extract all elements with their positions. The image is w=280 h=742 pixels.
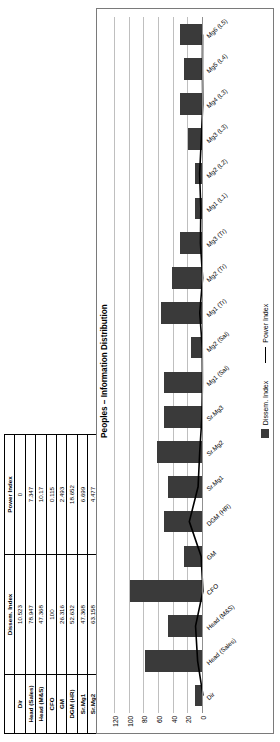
bar xyxy=(184,546,203,568)
x-label-slot: Mg3 (L3) xyxy=(204,121,246,156)
bar-slot xyxy=(115,469,203,504)
legend-line-swatch-icon xyxy=(265,347,266,363)
table-cell-label: Sr.Mg1 xyxy=(77,675,87,734)
table-cell-power: 0.115 xyxy=(46,435,56,555)
bar xyxy=(172,267,203,289)
bar xyxy=(184,58,203,80)
legend-item-dissem: Dissem. Index xyxy=(261,381,269,438)
x-axis-tick-label: Mg6 (L5) xyxy=(205,18,228,40)
x-axis-tick-label: Mg2 (L2) xyxy=(205,157,228,179)
bar-slot xyxy=(115,87,203,122)
x-label-slot: DGM (HR) xyxy=(204,504,246,539)
bar xyxy=(168,615,203,637)
bar xyxy=(145,650,203,672)
x-label-slot: Mg6 (L5) xyxy=(204,17,246,52)
x-axis-tick-label: Mg1 (Sal) xyxy=(205,364,230,387)
y-axis-tick-label: 40 xyxy=(170,716,177,723)
y-axis-tick-label: 60 xyxy=(156,716,163,723)
table-cell-label: Dir xyxy=(15,675,25,734)
axis-baseline xyxy=(202,17,203,713)
data-table-block: Dissem. Index Power Index Dir10.5230Head… xyxy=(4,434,94,734)
bar-slot xyxy=(115,121,203,156)
table-row: CFO1000.115 xyxy=(46,435,56,734)
bar-slot xyxy=(115,400,203,435)
x-label-slot: Mg1 (Sal) xyxy=(204,365,246,400)
x-label-slot: CFO xyxy=(204,574,246,609)
bar-slot xyxy=(115,504,203,539)
figure: Dissem. Index Power Index Dir10.5230Head… xyxy=(0,0,280,742)
bar xyxy=(161,302,203,324)
table-cell-power: 2.493 xyxy=(57,435,67,555)
bar-slot xyxy=(115,52,203,87)
x-label-slot: Mg3 (Tr) xyxy=(204,226,246,261)
table-header-power: Power Index xyxy=(5,435,15,555)
x-label-slot: Mg4 (L3) xyxy=(204,87,246,122)
bar-slot xyxy=(115,330,203,365)
x-axis-tick-label: Mg5 (L4) xyxy=(205,52,228,74)
x-axis-tick-label: Sr.Mg2 xyxy=(205,439,225,458)
bar-slot xyxy=(115,609,203,644)
chart-legend: Dissem. Index Power Index xyxy=(261,9,269,733)
bar xyxy=(168,476,203,498)
legend-label-dissem: Dissem. Index xyxy=(262,381,269,425)
bar-slot xyxy=(115,539,203,574)
x-label-slot: Mg2 (Tr) xyxy=(204,261,246,296)
table-cell-power: 6.699 xyxy=(77,435,87,555)
x-axis-tick-label: Dir xyxy=(205,690,216,701)
x-axis-labels: DirHead (Sales)Head (M&S)CFOGMDGM (HR)Sr… xyxy=(204,17,246,713)
x-label-slot: Mg2 (Sal) xyxy=(204,330,246,365)
table-row: Dir10.5230 xyxy=(15,435,25,734)
table-cell-label: Head (M&S) xyxy=(36,675,46,734)
x-label-slot: Head (Sales) xyxy=(204,643,246,678)
bar xyxy=(164,372,203,394)
rotated-figure-wrapper: Dissem. Index Power Index Dir10.5230Head… xyxy=(0,0,280,742)
table-cell-dissem: 47.368 xyxy=(77,555,87,675)
x-label-slot: Sr.Mg2 xyxy=(204,435,246,470)
bar xyxy=(164,511,203,533)
x-axis-tick-label: Sr.Mg3 xyxy=(205,404,225,423)
table-cell-power: 10.17 xyxy=(36,435,46,555)
table-cell-label: Head (Sales) xyxy=(25,675,35,734)
x-axis-tick-label: Mg3 (L3) xyxy=(205,122,228,144)
table-cell-dissem: 47.368 xyxy=(36,555,46,675)
y-axis-tick-label: 0 xyxy=(200,716,207,720)
bar-slot xyxy=(115,295,203,330)
table-cell-label: DGM (HR) xyxy=(67,675,77,734)
bar-slot xyxy=(115,643,203,678)
x-axis-tick-label: Mg1 (L1) xyxy=(205,192,228,214)
table-cell-dissem: 78.947 xyxy=(25,555,35,675)
table-cell-power: 18.652 xyxy=(67,435,77,555)
x-axis-tick-label: DGM (HR) xyxy=(205,502,232,527)
x-label-slot: Head (M&S) xyxy=(204,609,246,644)
legend-label-power: Power Index xyxy=(262,304,269,343)
bar xyxy=(188,128,203,150)
x-axis-tick-label: Mg1 (Tr) xyxy=(205,297,227,318)
bar-series xyxy=(115,17,203,713)
chart-title: Peoples – Information Distribution xyxy=(100,9,109,733)
x-axis-tick-label: GM xyxy=(205,550,217,562)
table-corner-header xyxy=(5,675,15,734)
table-cell-power: 0 xyxy=(15,435,25,555)
table-header-dissem: Dissem. Index xyxy=(5,555,15,675)
x-axis-tick-label: Mg4 (L3) xyxy=(205,87,228,109)
table-cell-dissem: 26.316 xyxy=(57,555,67,675)
bar-slot xyxy=(115,156,203,191)
table-row: DGM (HR)52.63218.652 xyxy=(67,435,77,734)
legend-item-power: Power Index xyxy=(262,304,269,363)
table-cell-label: GM xyxy=(57,675,67,734)
plot-area: 020406080100120 xyxy=(115,17,203,713)
x-label-slot: Sr.Mg1 xyxy=(204,469,246,504)
x-label-slot: Mg2 (L2) xyxy=(204,156,246,191)
x-axis-tick-label: Mg2 (Tr) xyxy=(205,262,227,283)
bar-slot xyxy=(115,226,203,261)
y-axis-tick-label: 20 xyxy=(185,716,192,723)
x-label-slot: Mg1 (L1) xyxy=(204,191,246,226)
bar-slot xyxy=(115,435,203,470)
y-axis-tick-label: 100 xyxy=(126,716,133,727)
table-cell-dissem: 52.632 xyxy=(67,555,77,675)
x-label-slot: Sr.Mg3 xyxy=(204,400,246,435)
x-label-slot: Mg1 (Tr) xyxy=(204,295,246,330)
table-header: Dissem. Index Power Index xyxy=(5,435,15,734)
bar-slot xyxy=(115,261,203,296)
bar xyxy=(180,24,203,46)
